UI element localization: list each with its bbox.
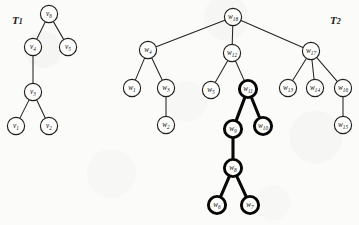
tree-edge-w8-w7	[237, 176, 246, 196]
tree-node-v3[interactable]: v3	[24, 83, 41, 100]
tree-node-w1[interactable]: w1	[123, 79, 140, 96]
tree-edge-w11-w9	[236, 98, 245, 121]
nodes-layer: v6v4v5v3v1v2w18w4w12w17w1w3w2w5w11w9w10w…	[7, 5, 351, 213]
tree-edge-w4-w3	[152, 58, 162, 80]
tree-node-w18[interactable]: w18	[224, 8, 241, 25]
tree-edge-v6-v5	[53, 22, 63, 40]
tree-node-w10[interactable]: w10	[254, 117, 271, 134]
tree-node-w15[interactable]: w15	[334, 116, 351, 133]
tree-node-v1[interactable]: v1	[7, 117, 24, 134]
graph-canvas: v6v4v5v3v1v2w18w4w12w17w1w3w2w5w11w9w10w…	[0, 0, 359, 225]
tree-edge-w17-w13	[293, 58, 307, 80]
tree-node-w12[interactable]: w12	[223, 44, 240, 61]
tree-edge-w18-w4	[156, 20, 225, 47]
tree-node-w6[interactable]: w6	[208, 196, 225, 213]
tree-label-t2: T2	[330, 14, 341, 26]
tree-node-w11[interactable]: w11	[239, 80, 256, 97]
tree-edge-w8-w6	[221, 176, 230, 196]
tree-edge-v3-v1	[20, 100, 29, 118]
tree-edge-w11-w10	[251, 98, 259, 118]
tree-edge-w4-w1	[135, 58, 144, 80]
tree-node-w13[interactable]: w13	[279, 79, 296, 96]
tree-edge-w18-w12	[232, 26, 233, 44]
tree-node-v4[interactable]: v4	[24, 38, 41, 55]
tree-node-w16[interactable]: w16	[334, 79, 351, 96]
tree-node-w14[interactable]: w14	[306, 79, 323, 96]
tree-node-w17[interactable]: w17	[302, 42, 319, 59]
tree-label-t1: T1	[12, 14, 23, 26]
tree-edge-w12-w11	[236, 61, 245, 81]
tree-node-w7[interactable]: w7	[241, 196, 258, 213]
tree-figure: v6v4v5v3v1v2w18w4w12w17w1w3w2w5w11w9w10w…	[0, 0, 359, 225]
tree-edge-w17-w14	[312, 60, 314, 80]
tree-node-w4[interactable]: w4	[139, 41, 156, 58]
tree-edge-w17-w16	[317, 58, 337, 82]
tree-node-w2[interactable]: w2	[157, 116, 174, 133]
tree-node-v2[interactable]: v2	[40, 117, 57, 134]
tree-node-w3[interactable]: w3	[157, 79, 174, 96]
tree-edge-w18-w17	[241, 21, 303, 48]
tree-node-w5[interactable]: w5	[202, 81, 219, 98]
tree-edge-w12-w5	[215, 61, 227, 83]
tree-node-w8[interactable]: w8	[224, 159, 241, 176]
tree-node-w9[interactable]: w9	[224, 120, 241, 137]
tree-node-v5[interactable]: v5	[59, 38, 76, 55]
tree-edge-v3-v2	[37, 100, 46, 118]
tree-edge-v6-v4	[37, 22, 45, 39]
tree-node-v6[interactable]: v6	[40, 5, 57, 22]
